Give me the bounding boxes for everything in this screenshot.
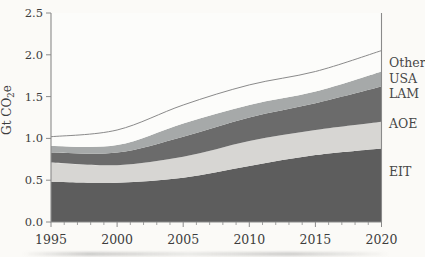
- series-label-aoe: AOE: [388, 116, 417, 131]
- y-tick-label: 2.0: [25, 48, 43, 62]
- x-tick-label: 2015: [299, 232, 331, 247]
- x-tick-label: 2020: [366, 232, 398, 247]
- x-tick-label: 2000: [101, 232, 133, 247]
- x-tick-label: 2005: [167, 232, 199, 247]
- scan-artifact-smudge: [22, 252, 391, 256]
- y-tick-label: 0.5: [25, 173, 43, 187]
- series-label-lam: LAM: [389, 86, 419, 101]
- x-tick-label: 1995: [35, 232, 67, 247]
- x-tick-label: 2010: [233, 232, 265, 247]
- stacked-area-chart: 0.00.51.01.52.02.51995200020052010201520…: [0, 0, 425, 257]
- series-label-other: Other: [389, 55, 425, 70]
- scanned-chart-page: 0.00.51.01.52.02.51995200020052010201520…: [0, 0, 425, 257]
- y-tick-label: 1.0: [25, 131, 43, 145]
- y-tick-label: 1.5: [25, 90, 43, 104]
- y-tick-label: 0.0: [25, 215, 43, 229]
- y-axis-label: Gt CO2e: [0, 85, 16, 135]
- series-label-eit: EIT: [389, 164, 412, 179]
- y-tick-label: 2.5: [25, 6, 43, 20]
- series-label-usa: USA: [389, 71, 418, 86]
